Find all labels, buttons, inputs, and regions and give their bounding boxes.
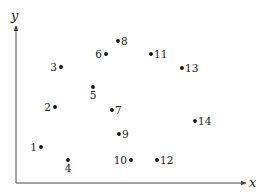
- point-1: 1: [30, 141, 43, 153]
- x-axis-label: x: [249, 175, 256, 190]
- point-dot: [117, 132, 121, 136]
- point-dot: [53, 105, 57, 109]
- point-14: 14: [193, 115, 212, 127]
- point-dot: [110, 108, 114, 112]
- point-12: 12: [155, 154, 173, 166]
- point-2: 2: [44, 101, 57, 113]
- point-11: 11: [149, 48, 167, 60]
- point-4: 4: [65, 158, 72, 174]
- point-label: 8: [121, 35, 128, 47]
- point-5: 5: [90, 85, 97, 101]
- point-dot: [39, 145, 43, 149]
- point-label: 11: [154, 48, 167, 60]
- point-label: 7: [115, 104, 122, 116]
- point-label: 14: [198, 115, 212, 127]
- point-label: 1: [30, 141, 37, 153]
- point-label: 13: [185, 62, 198, 74]
- point-13: 13: [180, 62, 198, 74]
- point-8: 8: [116, 35, 128, 47]
- point-dot: [129, 158, 133, 162]
- point-label: 3: [50, 61, 57, 73]
- point-dot: [155, 158, 159, 162]
- axes: x y: [10, 8, 256, 190]
- point-label: 5: [90, 89, 97, 101]
- point-label: 2: [44, 101, 51, 113]
- point-label: 10: [114, 154, 127, 166]
- point-10: 10: [114, 154, 133, 166]
- point-dot: [193, 119, 197, 123]
- point-dot: [104, 52, 108, 56]
- point-dot: [59, 65, 63, 69]
- point-dot: [180, 66, 184, 70]
- point-label: 9: [122, 128, 129, 140]
- point-label: 6: [95, 48, 102, 60]
- point-label: 4: [65, 162, 72, 174]
- point-dot: [149, 52, 153, 56]
- point-9: 9: [117, 128, 129, 140]
- point-3: 3: [50, 61, 63, 73]
- point-6: 6: [95, 48, 108, 60]
- scatter-diagram: x y 1234567891011121314: [0, 0, 256, 194]
- point-label: 12: [160, 154, 173, 166]
- point-7: 7: [110, 104, 122, 116]
- y-axis-label: y: [10, 8, 19, 23]
- points-layer: 1234567891011121314: [30, 35, 211, 175]
- point-dot: [116, 39, 120, 43]
